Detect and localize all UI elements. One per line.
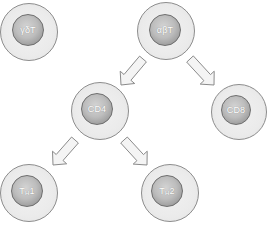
arrow-cd4-to-th1	[53, 137, 79, 165]
arrow-cd4-to-th2	[121, 137, 148, 165]
cell-label: γδT	[20, 25, 36, 35]
cell-label: CD4	[88, 104, 107, 114]
cell-alpha-beta-t: αβT	[137, 2, 195, 60]
cell-label-subscript: H	[25, 190, 30, 196]
cell-cd8: CD8	[211, 84, 267, 140]
cell-gamma-delta-t: γδT	[0, 3, 58, 61]
cell-th1: TH1	[0, 164, 58, 222]
nucleus-th1: TH1	[11, 175, 43, 207]
nucleus-gamma-delta-t: γδT	[12, 14, 44, 46]
cell-label-tail: 1	[30, 186, 35, 196]
cell-label-tail: 2	[170, 186, 175, 196]
cell-label: CD8	[227, 105, 246, 115]
cell-cd4: CD4	[71, 82, 129, 140]
nucleus-cd4: CD4	[81, 93, 113, 125]
nucleus-cd8: CD8	[221, 95, 251, 125]
nucleus-th2: TH2	[151, 175, 183, 207]
arrow-alpha-beta-to-cd8	[187, 56, 215, 85]
cell-label-subscript: H	[165, 190, 170, 196]
cell-label: αβT	[157, 25, 173, 35]
arrow-alpha-beta-to-cd4	[120, 56, 146, 85]
nucleus-alpha-beta-t: αβT	[149, 14, 181, 46]
t-cell-lineage-diagram: γδT αβT CD4 CD8 TH1 TH2	[0, 0, 268, 227]
cell-th2: TH2	[141, 164, 199, 222]
